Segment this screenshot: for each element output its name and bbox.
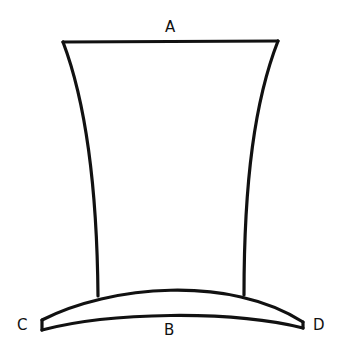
crown-right-side <box>244 41 278 295</box>
top-hat-diagram <box>0 0 349 355</box>
crown-top-edge <box>63 41 278 42</box>
label-a: A <box>165 20 175 35</box>
label-d: D <box>313 318 325 333</box>
label-c: C <box>17 318 27 333</box>
label-b: B <box>164 323 174 338</box>
brim-top-curve <box>42 290 303 322</box>
crown-left-side <box>63 42 98 296</box>
